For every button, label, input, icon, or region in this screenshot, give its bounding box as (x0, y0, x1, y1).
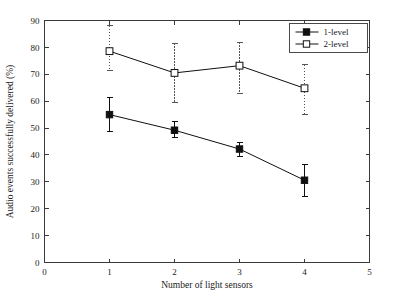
legend-label: 2-level (324, 39, 349, 49)
data-point-1-level (106, 111, 112, 117)
x-tick-label: 2 (172, 267, 177, 277)
data-point-1-level (236, 146, 242, 152)
y-tick-label: 40 (31, 150, 41, 160)
series-line-1-level (110, 115, 305, 181)
x-axis-title: Number of light sensors (161, 280, 253, 290)
y-tick-label: 90 (31, 16, 41, 26)
data-point-1-level (301, 177, 307, 183)
y-tick-label: 20 (31, 204, 41, 214)
x-tick-label: 5 (367, 267, 372, 277)
line-chart: 0123450102030405060708090Number of light… (0, 0, 398, 300)
data-point-2-level (106, 48, 113, 55)
y-tick-label: 50 (31, 123, 41, 133)
y-tick-label: 30 (31, 177, 41, 187)
y-tick-label: 60 (31, 96, 41, 106)
chart-figure: 0123450102030405060708090Number of light… (0, 0, 398, 300)
data-point-1-level (171, 127, 177, 133)
plot-frame (45, 21, 370, 263)
legend-marker (303, 41, 309, 47)
y-tick-label: 70 (31, 69, 41, 79)
y-axis-title: Audio events successfully delivered (%) (5, 65, 16, 219)
y-tick-label: 0 (35, 258, 40, 268)
y-tick-label: 80 (31, 43, 41, 53)
legend-label: 1-level (324, 27, 349, 37)
x-tick-label: 1 (107, 267, 112, 277)
legend-marker (303, 29, 309, 35)
data-point-2-level (301, 85, 308, 92)
data-point-2-level (171, 70, 178, 77)
x-tick-label: 3 (237, 267, 242, 277)
y-tick-label: 10 (31, 231, 41, 241)
x-tick-label: 0 (42, 267, 47, 277)
series-line-2-level (110, 51, 305, 88)
data-point-2-level (236, 62, 243, 69)
x-tick-label: 4 (302, 267, 307, 277)
